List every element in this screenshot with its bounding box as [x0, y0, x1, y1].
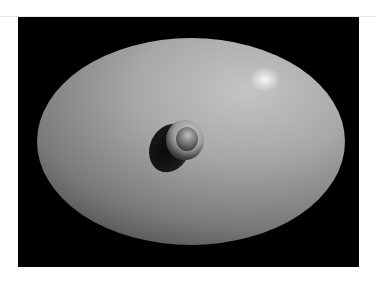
bump-core [176, 127, 198, 151]
image-frame [18, 17, 359, 267]
